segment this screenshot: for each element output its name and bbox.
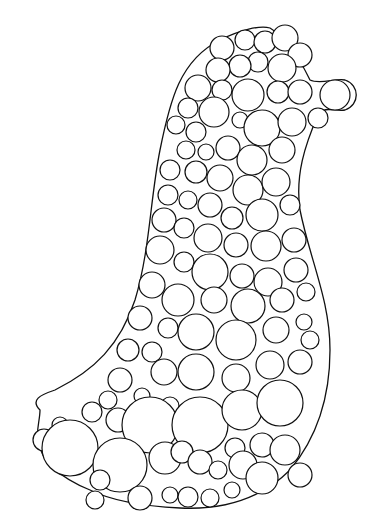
packed-circle [158, 318, 178, 338]
packed-circle [151, 359, 177, 385]
packed-circle [188, 450, 212, 474]
packed-circle [246, 199, 278, 231]
packed-circle [162, 284, 194, 316]
packed-circle [186, 122, 206, 142]
packed-circle [216, 320, 256, 360]
packed-circle [90, 470, 110, 490]
packed-circle [128, 486, 152, 510]
packed-circle [221, 207, 243, 229]
packed-circle [178, 314, 214, 350]
packed-circle [270, 288, 294, 312]
packed-circle [246, 462, 278, 494]
packed-circle [142, 342, 162, 362]
packed-circle [160, 160, 180, 180]
packed-circle [201, 287, 227, 313]
packed-circle [288, 463, 312, 487]
packed-circle [232, 79, 264, 111]
packed-circle [267, 81, 289, 103]
packed-circle [222, 390, 262, 430]
packed-circle [158, 185, 178, 205]
packed-circle [178, 98, 198, 118]
packed-circle [263, 317, 289, 343]
packed-circle [201, 489, 219, 507]
packed-circle [297, 283, 315, 301]
packed-circle [179, 191, 197, 209]
packed-circle [117, 339, 139, 361]
packed-circle [139, 272, 165, 298]
packed-circle [288, 350, 312, 374]
packed-circle [206, 58, 230, 82]
packed-circle [288, 80, 312, 104]
packed-circle [280, 195, 300, 215]
packed-circle [308, 108, 328, 128]
packed-circle [162, 487, 178, 503]
packed-circle [229, 55, 251, 77]
packed-circle [224, 233, 248, 257]
packed-circles [33, 25, 350, 510]
packed-circle [231, 289, 265, 323]
packed-circle [177, 141, 195, 159]
packed-circle [178, 487, 198, 507]
packed-circle [216, 136, 240, 160]
packed-circle [282, 228, 306, 252]
packed-circle [210, 36, 234, 60]
packed-circle [256, 351, 284, 379]
packed-circle [320, 80, 350, 110]
packed-circle [199, 97, 229, 127]
packed-circle [198, 144, 214, 160]
packed-circle [86, 491, 104, 509]
packed-circle [262, 168, 290, 196]
packed-circle [235, 30, 255, 50]
packed-circle [108, 368, 132, 392]
packed-circle [152, 208, 176, 232]
packed-circle [185, 161, 207, 183]
packed-circle [257, 380, 303, 426]
packed-circle [270, 435, 300, 465]
packed-circle [42, 420, 98, 476]
packed-circle [82, 402, 102, 422]
packed-circle [185, 75, 211, 101]
packed-circle [268, 54, 296, 82]
packed-circle [278, 108, 306, 136]
packed-circle [192, 254, 228, 290]
packed-circle [222, 364, 250, 392]
packed-circle [194, 224, 222, 252]
packed-circle [301, 331, 319, 349]
packed-circle [207, 165, 233, 191]
packed-circle [269, 137, 295, 163]
packed-circle [167, 116, 185, 134]
packed-circle [198, 193, 222, 217]
packed-circle [178, 354, 214, 390]
packed-circle [174, 218, 194, 238]
packed-circle [296, 314, 312, 330]
packed-circle [174, 252, 194, 272]
packed-circle [99, 391, 117, 409]
packed-circle [237, 145, 267, 175]
packed-circle [230, 264, 254, 288]
packed-circle [224, 482, 240, 498]
packed-circle [128, 306, 152, 330]
packed-circle [251, 231, 281, 261]
packed-circle [146, 236, 174, 264]
packed-circle [284, 258, 308, 282]
packed-circle [209, 461, 227, 479]
circle-packing-illustration [0, 0, 376, 531]
